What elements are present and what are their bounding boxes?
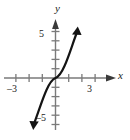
y-axis-arrowhead-icon — [52, 19, 59, 29]
x-tick-label-three: 3 — [87, 84, 92, 94]
x-tick-label-negative-three: –3 — [7, 84, 17, 94]
y-tick-label-five: 5 — [39, 29, 44, 39]
y-tick-label-negative-five: –5 — [36, 113, 46, 123]
x-axis-arrowhead-icon — [106, 75, 116, 82]
cubic-function-graph: y x –3 3 5 –5 — [0, 0, 130, 140]
graph-canvas — [0, 0, 130, 140]
y-axis-label: y — [55, 3, 60, 14]
curve-upper-arrowhead-icon — [72, 27, 82, 36]
x-axis-label: x — [118, 70, 123, 81]
